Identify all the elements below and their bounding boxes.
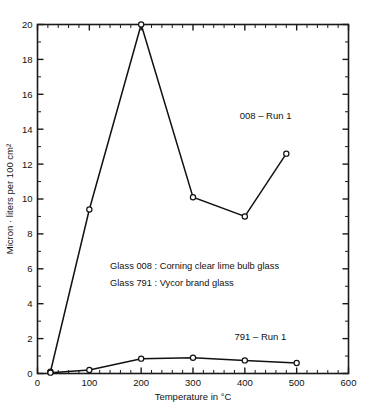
x-tick-label: 200: [133, 377, 149, 388]
data-point: [139, 22, 144, 27]
y-tick-label: 10: [22, 193, 33, 204]
y-tick-label: 4: [27, 298, 32, 309]
y-tick-label: 18: [22, 54, 33, 65]
y-tick-label: 14: [22, 124, 33, 135]
data-point: [139, 356, 144, 361]
data-point: [190, 195, 195, 200]
data-point: [87, 367, 92, 372]
y-tick-label: 8: [27, 228, 32, 239]
y-axis-title: Micron · liters per 100 cm²: [4, 144, 15, 254]
x-axis-title: Temperature in °C: [155, 391, 232, 402]
x-tick-label: 300: [185, 377, 201, 388]
y-tick-label: 2: [27, 333, 32, 344]
chart-figure: 0100200300400500600 02468101214161820 Te…: [0, 0, 369, 407]
x-tick-label: 400: [237, 377, 253, 388]
data-point: [242, 214, 247, 219]
x-tick-label: 100: [81, 377, 97, 388]
y-tick-label: 12: [22, 159, 33, 170]
y-tick-label: 20: [22, 19, 33, 30]
series-label-0: 008 – Run 1: [240, 110, 292, 121]
data-point: [294, 360, 299, 365]
y-tick-label: 0: [27, 368, 32, 379]
line-chart: 0100200300400500600 02468101214161820 Te…: [0, 0, 369, 407]
annotation-line-0: Glass 008 : Corning clear lime bulb glas…: [110, 261, 279, 271]
x-tick-label: 600: [341, 377, 357, 388]
y-tick-label: 6: [27, 263, 32, 274]
x-tick-label: 500: [289, 377, 305, 388]
series-label-1: 791 – Run 1: [235, 331, 287, 342]
data-point: [284, 151, 289, 156]
y-tick-label: 16: [22, 89, 33, 100]
annotation-line-1: Glass 791 : Vycor brand glass: [110, 278, 234, 288]
data-point: [87, 207, 92, 212]
data-point: [242, 358, 247, 363]
x-tick-label: 0: [35, 377, 40, 388]
data-point: [48, 370, 53, 375]
data-point: [190, 355, 195, 360]
chart-background: [0, 0, 369, 407]
